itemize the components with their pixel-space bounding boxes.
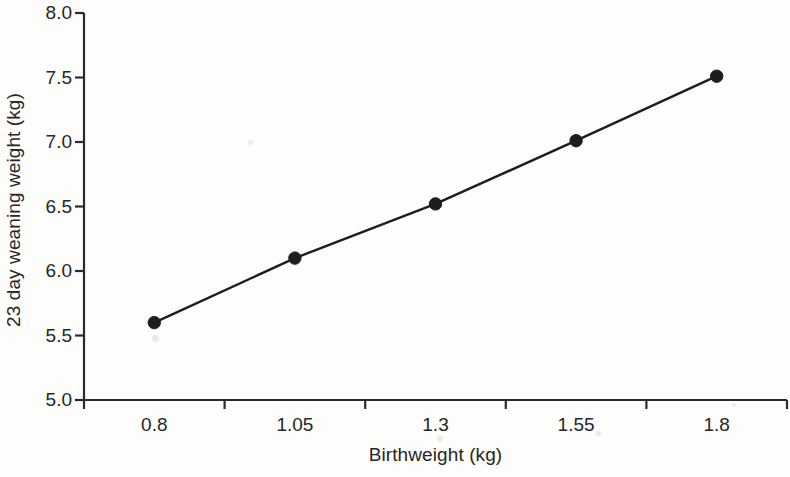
axis-tick-marks <box>75 13 787 409</box>
data-point-marker <box>148 316 160 328</box>
data-point-marker <box>570 135 582 147</box>
plot-area <box>0 0 790 477</box>
data-point-marker <box>289 252 301 264</box>
data-point-markers <box>148 70 723 329</box>
data-point-marker <box>711 70 723 82</box>
chart-figure: 23 day weaning weight (kg) 5.05.56.06.57… <box>0 0 790 477</box>
data-point-marker <box>429 198 441 210</box>
